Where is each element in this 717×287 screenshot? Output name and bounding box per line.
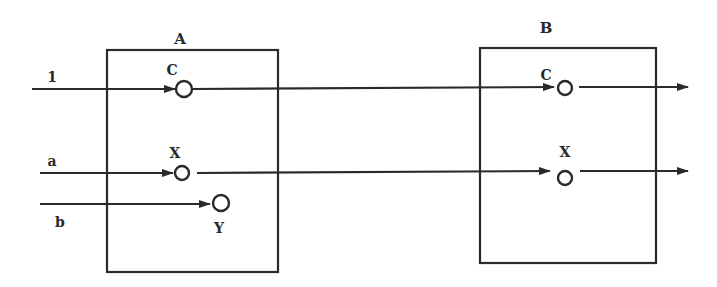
node-b-x-circle	[558, 171, 572, 185]
block-diagram: A B 1 C C a X X b	[0, 0, 717, 287]
connection-a-x-to-b-x	[197, 171, 550, 173]
connection-a-c-to-b-c	[192, 87, 554, 89]
input-b-line: b	[40, 204, 210, 230]
block-a-box	[107, 50, 278, 272]
block-b-label: B	[540, 19, 553, 37]
node-b-c-circle	[558, 81, 572, 95]
node-b-x-label: X	[560, 144, 571, 160]
node-b-x: X	[558, 144, 572, 185]
node-a-y-label: Y	[213, 220, 225, 236]
input-b-label: b	[55, 214, 65, 230]
node-a-x-label: X	[170, 145, 181, 161]
node-b-c: C	[540, 67, 572, 95]
input-1-line: 1	[32, 69, 175, 89]
block-b: B	[480, 19, 656, 263]
input-a-label: a	[47, 153, 56, 169]
block-a: A	[107, 30, 278, 272]
node-a-y-circle	[213, 195, 229, 211]
node-a-c-label: C	[166, 62, 177, 78]
node-b-c-label: C	[540, 67, 551, 83]
node-a-c: C	[166, 62, 192, 97]
node-a-x-circle	[175, 166, 189, 180]
node-a-x: X	[170, 145, 189, 180]
node-a-c-circle	[176, 81, 192, 97]
input-1-label: 1	[47, 69, 57, 85]
block-a-label: A	[173, 30, 186, 48]
node-a-y: Y	[213, 195, 229, 236]
